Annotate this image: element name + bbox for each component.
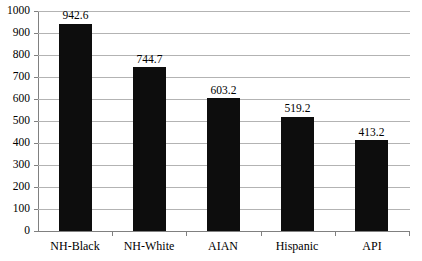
bar-value-label-aian: 603.2 — [194, 84, 254, 96]
y-axis-tick-label: 1000 — [0, 5, 30, 16]
y-axis-tick-label: 300 — [0, 159, 30, 170]
y-axis-tick-label: 700 — [0, 71, 30, 82]
bar-api — [355, 140, 388, 231]
gridline-900 — [38, 33, 410, 34]
gridline-800 — [38, 55, 410, 56]
bar-value-label-api: 413.2 — [342, 126, 402, 138]
bar-value-label-nh-black: 942.6 — [46, 9, 106, 21]
x-axis-tick — [335, 232, 336, 236]
x-axis-tick — [186, 232, 187, 236]
y-axis-tick-label: 0 — [0, 225, 30, 236]
x-axis-tick — [409, 232, 410, 236]
x-axis-category-label-hispanic: Hispanic — [254, 239, 340, 253]
y-axis-tick-label: 800 — [0, 49, 30, 60]
bar-aian — [207, 98, 240, 231]
x-axis-tick — [112, 232, 113, 236]
bar-hispanic — [281, 117, 314, 231]
gridline-700 — [38, 77, 410, 78]
x-axis-line — [38, 231, 410, 232]
bar-value-label-hispanic: 519.2 — [268, 102, 328, 114]
y-axis-tick-label: 400 — [0, 137, 30, 148]
bar-nh-black — [59, 24, 92, 231]
bar-value-label-nh-white: 744.7 — [120, 53, 180, 65]
y-axis-tick-label: 900 — [0, 27, 30, 38]
x-axis-tick — [261, 232, 262, 236]
bar-nh-white — [133, 67, 166, 231]
y-axis-tick-label: 500 — [0, 115, 30, 126]
bar-chart: 1000 900 800 700 600 500 400 300 200 100… — [0, 0, 422, 261]
plot-area — [38, 11, 410, 231]
x-axis-category-label-api: API — [329, 239, 415, 253]
y-axis-tick-label: 600 — [0, 93, 30, 104]
y-axis-tick-label: 200 — [0, 181, 30, 192]
y-axis-tick-label: 100 — [0, 203, 30, 214]
